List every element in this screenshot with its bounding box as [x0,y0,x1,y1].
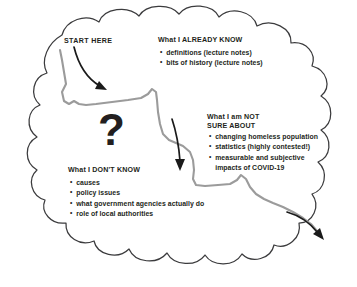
section-not-sure-about-bullets: changing homeless population statistics … [209,132,318,174]
list-item: causes [70,178,204,187]
section-already-know-heading: What I ALREADY KNOW [158,36,242,45]
list-item-continuation: impacts of COVID-19 [209,163,318,172]
section-dont-know: What I DON'T KNOW causes policy issues w… [68,166,140,175]
list-item: statistics (highly contested!) [209,142,318,151]
list-item: what government agencies actually do [70,199,204,208]
question-mark: ? [98,108,125,152]
list-item: changing homeless population [209,132,318,141]
start-here-label: START HERE [64,37,112,46]
list-item: policy issues [70,188,204,197]
list-item: measurable and subjective [209,153,318,162]
list-item: definitions (lecture notes) [160,48,263,57]
section-dont-know-bullets: causes policy issues what government age… [70,178,204,220]
section-already-know-bullets: definitions (lecture notes) bits of hist… [160,48,263,69]
list-item: role of local authorities [70,209,204,218]
section-not-sure-about-heading-line1: What I am NOT [207,113,259,122]
list-item: bits of history (lecture notes) [160,58,263,67]
section-not-sure-about: What I am NOT SURE ABOUT changing homele… [207,113,259,132]
section-already-know: What I ALREADY KNOW definitions (lecture… [158,36,242,45]
section-dont-know-heading: What I DON'T KNOW [68,166,140,175]
diagram-canvas: START HERE ? What I ALREADY KNOW definit… [0,0,357,287]
section-not-sure-about-heading-line2: SURE ABOUT [207,122,259,131]
